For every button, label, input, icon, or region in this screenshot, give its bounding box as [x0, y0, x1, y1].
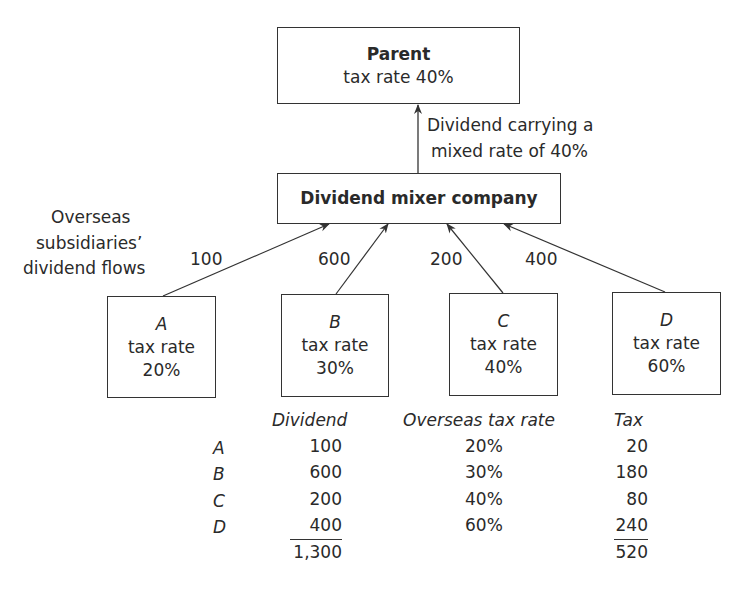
subsidiary-rate-label: tax rate: [301, 334, 368, 357]
parent-box: Parent tax rate 40%: [277, 27, 520, 104]
row-b-rate: 30%: [465, 461, 503, 483]
subsidiary-name: C: [498, 310, 510, 333]
mixer-box: Dividend mixer company: [277, 173, 561, 224]
row-c-dividend: 200: [280, 488, 342, 510]
row-d-label: D: [213, 516, 226, 538]
subsidiary-rate-label: tax rate: [128, 336, 195, 359]
subsidiary-rate: 60%: [648, 355, 686, 378]
parent-title: Parent: [367, 43, 431, 66]
header-overseas-tax-rate: Overseas tax rate: [403, 409, 555, 431]
flow-label-b: 600: [318, 248, 350, 270]
row-c-tax: 80: [600, 488, 648, 510]
header-dividend: Dividend: [272, 409, 347, 431]
row-b-dividend: 600: [280, 461, 342, 483]
side-label-line1: Overseas: [51, 206, 130, 228]
subsidiary-box-c: C tax rate 40%: [449, 293, 558, 396]
row-b-label: B: [213, 463, 225, 485]
subsidiary-rate: 30%: [316, 357, 354, 380]
row-d-dividend: 400: [280, 514, 342, 536]
dividend-total: 1,300: [270, 541, 342, 563]
row-b-tax: 180: [600, 461, 648, 483]
side-label-line2: subsidiaries’: [36, 232, 142, 254]
side-label-line3: dividend flows: [23, 257, 145, 279]
row-a-rate: 20%: [465, 435, 503, 457]
parent-arrow-label-line1: Dividend carrying a: [427, 114, 593, 136]
row-a-dividend: 100: [280, 435, 342, 457]
parent-arrow-label-line2: mixed rate of 40%: [431, 140, 588, 162]
subsidiary-box-d: D tax rate 60%: [612, 292, 721, 395]
subsidiary-rate-label: tax rate: [470, 333, 537, 356]
flow-label-a: 100: [190, 248, 222, 270]
row-c-label: C: [213, 490, 225, 512]
row-a-tax: 20: [600, 435, 648, 457]
row-d-tax: 240: [600, 514, 648, 536]
subsidiary-rate: 20%: [143, 359, 181, 382]
arrow-a-to-mixer: [163, 224, 329, 296]
header-tax: Tax: [614, 409, 643, 431]
tax-total: 520: [600, 541, 648, 563]
subsidiary-name: D: [660, 309, 673, 332]
subsidiary-rate-label: tax rate: [633, 332, 700, 355]
flow-label-c: 200: [430, 248, 462, 270]
dividend-total-rule: [290, 539, 342, 540]
row-a-label: A: [213, 437, 225, 459]
row-c-rate: 40%: [465, 488, 503, 510]
subsidiary-box-a: A tax rate 20%: [107, 296, 216, 398]
tax-total-rule: [614, 539, 648, 540]
subsidiary-box-b: B tax rate 30%: [281, 294, 389, 397]
mixer-title: Dividend mixer company: [300, 187, 537, 210]
subsidiary-name: B: [329, 311, 341, 334]
subsidiary-rate: 40%: [485, 356, 523, 379]
subsidiary-name: A: [156, 313, 168, 336]
flow-label-d: 400: [525, 248, 557, 270]
parent-rate: tax rate 40%: [343, 66, 453, 89]
row-d-rate: 60%: [465, 514, 503, 536]
